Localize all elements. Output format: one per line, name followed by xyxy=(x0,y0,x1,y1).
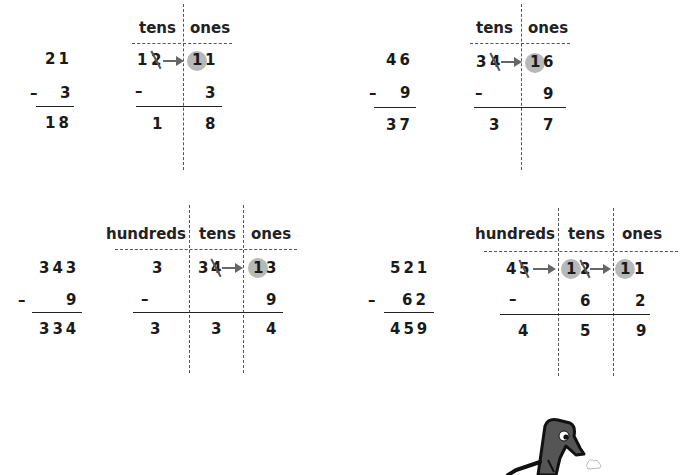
p2-header-ones: ones xyxy=(528,19,568,37)
p3-column-divider-1 xyxy=(189,205,190,373)
p3-answer-rule xyxy=(32,312,82,313)
p2-ones-original: 6 xyxy=(543,53,556,71)
p2-pv-answer-rule xyxy=(474,107,566,108)
p3-subtrahend: 9 xyxy=(66,291,79,309)
p4-answer-rule xyxy=(384,312,434,313)
p1-result: 18 xyxy=(45,114,72,132)
p3-hundreds: 3 xyxy=(152,259,165,277)
p1-pv-result-tens: 1 xyxy=(152,115,165,133)
p2-header-tens: tens xyxy=(476,19,513,37)
p3-pv-result-hundreds: 3 xyxy=(150,320,163,338)
p3-header-hundreds: hundreds xyxy=(106,225,186,243)
p1-column-divider xyxy=(183,4,184,170)
p1-ones-carry: 1 xyxy=(192,51,205,69)
p1-top-number: 21 xyxy=(45,50,72,68)
p1-ones-original: 1 xyxy=(205,51,218,69)
p2-minus-sign: – xyxy=(369,84,380,102)
p4-column-divider-2 xyxy=(613,208,614,376)
p2-answer-rule xyxy=(374,107,416,108)
p3-header-tens: tens xyxy=(199,225,236,243)
p2-column-divider xyxy=(521,4,522,170)
p4-column-divider-1 xyxy=(558,208,559,376)
p2-result: 37 xyxy=(386,116,413,134)
p4-header-tens: tens xyxy=(568,225,605,243)
p4-pv-result-hundreds: 4 xyxy=(518,322,531,340)
p4-hundreds-new: 4 xyxy=(506,260,519,278)
p2-pv-result-tens: 3 xyxy=(489,116,502,134)
p3-minus-sign: – xyxy=(18,291,29,309)
p4-ones-original: 1 xyxy=(634,260,647,278)
p4-pv-ones-sub: 2 xyxy=(635,292,648,310)
p1-minus-sign: – xyxy=(30,84,41,102)
p3-regroup-arrow-icon xyxy=(222,267,236,269)
p4-minus-sign: – xyxy=(368,291,379,309)
p4-header-hundreds: hundreds xyxy=(475,225,555,243)
p1-tens-new: 1 xyxy=(137,51,150,69)
cartoon-character-icon xyxy=(490,410,620,475)
p2-regroup-arrow-icon xyxy=(501,61,515,63)
p3-pv-ones-sub: 9 xyxy=(266,291,279,309)
p3-header-ones: ones xyxy=(251,225,291,243)
p1-pv-minus: – xyxy=(135,82,146,100)
p4-regroup-arrow-2-icon xyxy=(590,268,604,270)
p1-regroup-arrow-icon xyxy=(163,60,177,62)
p1-pv-result-ones: 8 xyxy=(205,115,218,133)
p4-header-ones: ones xyxy=(622,225,662,243)
p4-top-number: 521 xyxy=(390,259,430,277)
p2-ones-carry: 1 xyxy=(530,53,543,71)
p2-top-number: 46 xyxy=(386,51,413,69)
p2-pv-ones-sub: 9 xyxy=(543,85,556,103)
p1-answer-rule xyxy=(36,106,74,107)
p1-header-tens: tens xyxy=(139,19,176,37)
p4-pv-result-tens: 5 xyxy=(580,322,593,340)
p2-pv-minus: – xyxy=(475,84,486,102)
p3-result: 334 xyxy=(39,320,79,338)
p1-subtrahend: 3 xyxy=(60,84,73,102)
p4-regroup-arrow-1-icon xyxy=(533,268,549,270)
p3-tens-new: 3 xyxy=(198,259,211,277)
p4-header-divider xyxy=(484,251,678,252)
p3-pv-minus: – xyxy=(141,290,152,308)
p4-pv-answer-rule xyxy=(500,314,650,315)
p1-header-ones: ones xyxy=(190,19,230,37)
p3-pv-answer-rule xyxy=(133,312,283,313)
p4-pv-minus: – xyxy=(509,290,520,308)
p4-pv-result-ones: 9 xyxy=(636,322,649,340)
p3-pv-result-ones: 4 xyxy=(266,320,279,338)
p3-ones-original: 3 xyxy=(266,259,279,277)
p1-pv-ones-sub: 3 xyxy=(205,84,218,102)
p4-pv-tens-sub: 6 xyxy=(580,292,593,310)
p3-top-number: 343 xyxy=(39,259,79,277)
p3-header-divider xyxy=(115,249,297,250)
p3-pv-result-tens: 3 xyxy=(211,320,224,338)
p1-pv-answer-rule xyxy=(136,106,222,107)
p4-tens-carry: 1 xyxy=(566,260,579,278)
p2-pv-result-ones: 7 xyxy=(543,116,556,134)
p4-ones-carry: 1 xyxy=(620,260,633,278)
p3-ones-carry: 1 xyxy=(253,259,266,277)
p2-subtrahend: 9 xyxy=(400,84,413,102)
p2-tens-new: 3 xyxy=(476,53,489,71)
p4-result: 459 xyxy=(390,320,430,338)
p4-subtrahend: 62 xyxy=(402,291,429,309)
p3-column-divider-2 xyxy=(243,205,244,373)
p1-header-divider xyxy=(132,43,232,44)
p2-header-divider xyxy=(470,43,570,44)
